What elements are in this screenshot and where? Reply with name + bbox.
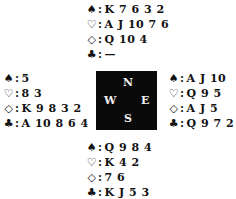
spade-icon: ♠ <box>168 71 180 86</box>
west-diamonds-cards: K 9 8 3 2 <box>22 101 82 116</box>
east-hand: ♠:A J 10 ♡:Q 9 5 ◇:A J 5 ♣:Q 9 7 2 <box>168 71 234 131</box>
south-hearts: ♡:K 4 2 <box>86 155 152 170</box>
east-spades: ♠:A J 10 <box>168 71 234 86</box>
club-icon: ♣ <box>3 116 15 131</box>
north-clubs-cards: — <box>105 47 117 62</box>
diamond-icon: ◇ <box>86 170 98 185</box>
north-spades: ♠:K 7 6 3 2 <box>86 2 169 17</box>
diamond-icon: ◇ <box>86 32 98 47</box>
east-diamonds-cards: A J 5 <box>187 101 219 116</box>
south-hand: ♠:Q 9 8 4 ♡:K 4 2 ◇:7 6 ♣:K J 5 3 <box>86 140 152 199</box>
compass-west-label: W <box>104 94 116 107</box>
heart-icon: ♡ <box>168 86 180 101</box>
heart-icon: ♡ <box>3 86 15 101</box>
east-diamonds: ◇:A J 5 <box>168 101 234 116</box>
north-diamonds-cards: Q 10 4 <box>105 32 148 47</box>
west-spades: ♠:5 <box>3 71 89 86</box>
north-diamonds: ◇:Q 10 4 <box>86 32 169 47</box>
spade-icon: ♠ <box>86 140 98 155</box>
east-clubs: ♣:Q 9 7 2 <box>168 116 234 131</box>
west-diamonds: ◇:K 9 8 3 2 <box>3 101 89 116</box>
north-hearts-cards: A J 10 7 6 <box>105 17 170 32</box>
north-spades-cards: K 7 6 3 2 <box>105 2 165 17</box>
west-hearts-cards: 8 3 <box>22 86 43 101</box>
south-diamonds-cards: 7 6 <box>105 170 126 185</box>
club-icon: ♣ <box>86 185 98 199</box>
compass-east-label: E <box>141 94 149 107</box>
south-diamonds: ◇:7 6 <box>86 170 152 185</box>
diamond-icon: ◇ <box>3 101 15 116</box>
compass-south-label: S <box>124 112 132 125</box>
heart-icon: ♡ <box>86 17 98 32</box>
north-hearts: ♡:A J 10 7 6 <box>86 17 169 32</box>
south-spades-cards: Q 9 8 4 <box>105 140 153 155</box>
east-clubs-cards: Q 9 7 2 <box>187 116 235 131</box>
west-clubs: ♣:A 10 8 6 4 <box>3 116 89 131</box>
club-icon: ♣ <box>168 116 180 131</box>
spade-icon: ♠ <box>86 2 98 17</box>
club-icon: ♣ <box>86 47 98 62</box>
west-hearts: ♡:8 3 <box>3 86 89 101</box>
compass-table: N W E S <box>96 71 157 130</box>
heart-icon: ♡ <box>86 155 98 170</box>
spade-icon: ♠ <box>3 71 15 86</box>
west-spades-cards: 5 <box>22 71 30 86</box>
north-hand: ♠:K 7 6 3 2 ♡:A J 10 7 6 ◇:Q 10 4 ♣:— <box>86 2 169 62</box>
south-hearts-cards: K 4 2 <box>105 155 140 170</box>
east-hearts: ♡:Q 9 5 <box>168 86 234 101</box>
west-hand: ♠:5 ♡:8 3 ◇:K 9 8 3 2 ♣:A 10 8 6 4 <box>3 71 89 131</box>
north-clubs: ♣:— <box>86 47 169 62</box>
compass-north-label: N <box>123 76 133 89</box>
east-spades-cards: A J 10 <box>187 71 227 86</box>
south-clubs-cards: K J 5 3 <box>105 185 150 199</box>
south-clubs: ♣:K J 5 3 <box>86 185 152 199</box>
west-clubs-cards: A 10 8 6 4 <box>22 116 89 131</box>
south-spades: ♠:Q 9 8 4 <box>86 140 152 155</box>
east-hearts-cards: Q 9 5 <box>187 86 222 101</box>
diamond-icon: ◇ <box>168 101 180 116</box>
